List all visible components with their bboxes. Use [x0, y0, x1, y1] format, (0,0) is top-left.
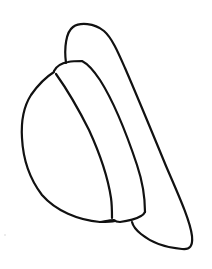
brim-outline	[65, 24, 192, 249]
band-bottom-edge	[100, 212, 145, 222]
scan-speck	[4, 234, 6, 236]
hat-drawing	[0, 0, 212, 269]
hat-icon	[22, 24, 192, 249]
band-inner-edge	[56, 74, 112, 218]
